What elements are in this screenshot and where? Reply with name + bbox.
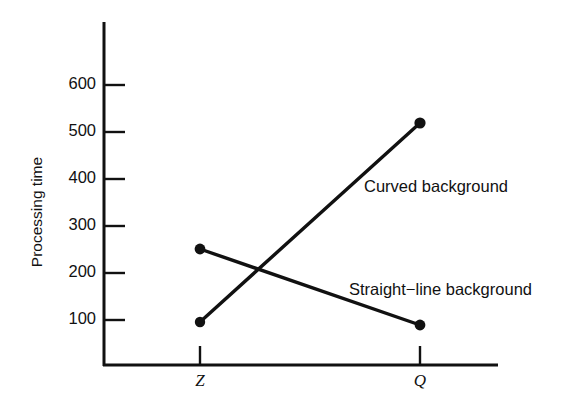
data-point-straight-z — [195, 244, 206, 255]
annotation-straight-line-background: Straight−line background — [349, 280, 532, 298]
y-tick-marks — [104, 85, 125, 320]
y-tick-label-500: 500 — [68, 121, 96, 139]
x-tick-label-q: Q — [414, 371, 426, 390]
y-tick-label-100: 100 — [68, 309, 96, 327]
chart-container: 600 500 400 300 200 100 Z Q Processing t… — [0, 0, 588, 411]
y-tick-label-300: 300 — [68, 215, 96, 233]
data-point-curved-z — [195, 317, 205, 327]
x-tick-marks — [200, 346, 420, 365]
y-axis-title: Processing time — [28, 157, 45, 267]
x-tick-label-z: Z — [195, 371, 205, 390]
y-tick-label-400: 400 — [68, 168, 96, 186]
line-chart: 600 500 400 300 200 100 Z Q Processing t… — [0, 0, 588, 411]
data-point-straight-q — [415, 320, 426, 331]
y-tick-label-600: 600 — [68, 74, 96, 92]
annotation-curved-background: Curved background — [364, 177, 508, 195]
data-point-curved-q — [414, 117, 425, 128]
y-tick-label-200: 200 — [68, 262, 96, 280]
